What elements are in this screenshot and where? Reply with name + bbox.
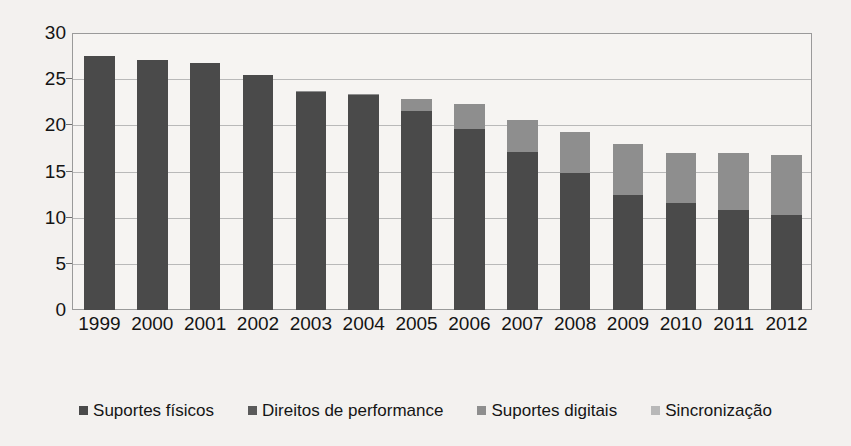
bar-stack[interactable] — [348, 94, 379, 310]
bar-group[interactable] — [454, 34, 485, 310]
legend-swatch-icon — [248, 406, 257, 415]
bar-stack[interactable] — [771, 155, 802, 310]
bar-segment[interactable] — [401, 99, 432, 112]
bar-segment[interactable] — [718, 153, 749, 210]
y-axis-tick-label: 0 — [20, 300, 66, 319]
bar-group[interactable] — [401, 34, 432, 310]
bar-segment[interactable] — [454, 129, 485, 310]
y-axis-tick-label: 5 — [20, 254, 66, 273]
legend-item-label: Direitos de performance — [262, 401, 443, 420]
bar-segment[interactable] — [348, 95, 379, 310]
x-axis-tick-label: 2007 — [496, 313, 549, 335]
bar-segment[interactable] — [507, 152, 538, 310]
bar-stack[interactable] — [666, 153, 697, 310]
bar-stack[interactable] — [613, 144, 644, 310]
bar-stack[interactable] — [190, 63, 221, 310]
bar-stack[interactable] — [243, 75, 274, 310]
bar-segment[interactable] — [84, 56, 115, 310]
x-axis-tick-label: 2012 — [760, 313, 813, 335]
x-axis-tick-label: 1999 — [73, 313, 126, 335]
bar-group[interactable] — [296, 34, 327, 310]
bar-group[interactable] — [84, 34, 115, 310]
legend-item[interactable]: Sincronização — [651, 401, 772, 420]
bar-group[interactable] — [666, 34, 697, 310]
y-axis: 051015202530 — [0, 0, 66, 380]
bar-segment[interactable] — [507, 120, 538, 152]
bar-group[interactable] — [190, 34, 221, 310]
bar-segment[interactable] — [137, 60, 168, 310]
bar-segment[interactable] — [560, 173, 591, 310]
bar-segment[interactable] — [243, 75, 274, 310]
y-axis-tick-label: 20 — [20, 115, 66, 134]
bar-group[interactable] — [560, 34, 591, 310]
x-axis-tick-label: 2009 — [602, 313, 655, 335]
bar-stack[interactable] — [718, 153, 749, 310]
x-axis-tick-label: 2005 — [390, 313, 443, 335]
x-axis-tick-label: 2000 — [126, 313, 179, 335]
chart-legend: Suportes físicosDireitos de performanceS… — [0, 396, 851, 424]
x-axis-tick-label: 2011 — [707, 313, 760, 335]
bar-group[interactable] — [507, 34, 538, 310]
bar-group[interactable] — [137, 34, 168, 310]
bar-stack[interactable] — [507, 120, 538, 310]
bar-group[interactable] — [613, 34, 644, 310]
x-axis-tick-label: 2008 — [549, 313, 602, 335]
bar-segment[interactable] — [401, 111, 432, 310]
bar-chart: 051015202530 199920002001200220032004200… — [0, 0, 851, 380]
x-axis-tick-label: 2002 — [232, 313, 285, 335]
bar-segment[interactable] — [296, 92, 327, 310]
bar-segment[interactable] — [613, 144, 644, 195]
bar-series-container — [73, 34, 811, 310]
legend-swatch-icon — [651, 406, 660, 415]
bar-group[interactable] — [718, 34, 749, 310]
legend-swatch-icon — [477, 406, 486, 415]
legend-swatch-icon — [79, 406, 88, 415]
bar-group[interactable] — [348, 34, 379, 310]
x-axis-tick-label: 2010 — [654, 313, 707, 335]
bar-segment[interactable] — [771, 215, 802, 310]
bar-segment[interactable] — [454, 104, 485, 129]
bar-stack[interactable] — [560, 132, 591, 310]
x-axis-tick-label: 2003 — [284, 313, 337, 335]
y-axis-tick-label: 15 — [20, 162, 66, 181]
legend-item-label: Suportes físicos — [93, 401, 214, 420]
bar-segment[interactable] — [613, 195, 644, 310]
bar-group[interactable] — [243, 34, 274, 310]
bar-stack[interactable] — [401, 99, 432, 310]
bar-segment[interactable] — [560, 132, 591, 174]
bar-stack[interactable] — [296, 91, 327, 310]
x-axis-tick-label: 2001 — [179, 313, 232, 335]
y-axis-tick-label: 25 — [20, 69, 66, 88]
bar-segment[interactable] — [190, 63, 221, 310]
bar-group[interactable] — [771, 34, 802, 310]
legend-item-label: Suportes digitais — [491, 401, 617, 420]
bar-segment[interactable] — [666, 203, 697, 310]
bar-segment[interactable] — [666, 153, 697, 203]
bar-segment[interactable] — [718, 210, 749, 310]
bar-stack[interactable] — [454, 104, 485, 310]
y-axis-tick-label: 30 — [20, 23, 66, 42]
x-axis-tick-label: 2006 — [443, 313, 496, 335]
legend-item[interactable]: Direitos de performance — [248, 401, 443, 420]
legend-item-label: Sincronização — [665, 401, 772, 420]
x-axis-tick-label: 2004 — [337, 313, 390, 335]
legend-item[interactable]: Suportes físicos — [79, 401, 214, 420]
bar-stack[interactable] — [84, 56, 115, 310]
bar-stack[interactable] — [137, 60, 168, 310]
legend-item[interactable]: Suportes digitais — [477, 401, 617, 420]
chart-page: 051015202530 199920002001200220032004200… — [0, 0, 851, 446]
x-axis: 1999200020012002200320042005200620072008… — [73, 313, 811, 343]
bar-segment[interactable] — [771, 155, 802, 215]
y-axis-tick-label: 10 — [20, 208, 66, 227]
